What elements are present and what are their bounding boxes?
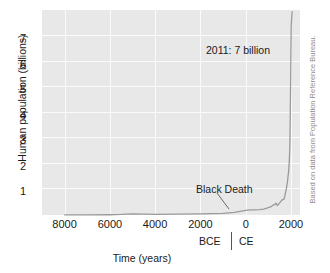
source-credit: Based on data from Population Reference …: [308, 12, 317, 204]
x-axis-title: Time (years): [42, 252, 242, 264]
annotation-2011-seven-billion: 2011: 7 billion: [206, 44, 270, 56]
bce-label: BCE: [199, 235, 221, 247]
y-axis-title: Human population (billions): [16, 6, 28, 190]
x-tick-label-2000-ce: 2000: [261, 219, 321, 230]
era-divider: [231, 232, 232, 250]
population-curve: [42, 10, 300, 215]
ce-label: CE: [239, 235, 254, 247]
plot-area: [42, 10, 300, 215]
annotation-black-death: Black Death: [196, 183, 253, 195]
population-growth-chart: 7 6 5 4 3 2 1 Human population (billions…: [0, 0, 330, 273]
